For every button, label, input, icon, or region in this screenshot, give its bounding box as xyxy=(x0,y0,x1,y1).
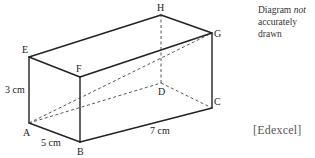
note-prefix: Diagram xyxy=(258,5,294,15)
dimension-length: 7 cm xyxy=(150,125,170,136)
edge-HG xyxy=(161,15,212,33)
vertex-label-A: A xyxy=(23,127,31,138)
edge-EF xyxy=(29,57,80,77)
dimension-height: 3 cm xyxy=(5,84,25,95)
vertex-label-C: C xyxy=(214,96,221,107)
vertex-label-E: E xyxy=(22,44,28,55)
vertex-label-H: H xyxy=(157,2,164,13)
hidden-edge-DC xyxy=(161,83,212,108)
vertex-label-B: B xyxy=(77,146,84,157)
diagonal-AG xyxy=(29,33,212,123)
source-label: [Edexcel] xyxy=(253,123,301,138)
dimension-width: 5 cm xyxy=(41,137,61,148)
vertex-label-G: G xyxy=(214,28,221,39)
vertex-label-D: D xyxy=(158,86,165,97)
edge-BC xyxy=(80,108,212,142)
hidden-edge-AD xyxy=(29,83,161,123)
edge-EH xyxy=(29,15,161,57)
note-line-1: Diagram not xyxy=(258,4,315,16)
edge-FG xyxy=(80,33,212,77)
vertex-label-F: F xyxy=(76,63,82,74)
accuracy-note: Diagram not accurately drawn xyxy=(258,4,315,40)
note-line-2: accurately drawn xyxy=(258,16,315,40)
note-emphasis: not xyxy=(294,5,306,15)
